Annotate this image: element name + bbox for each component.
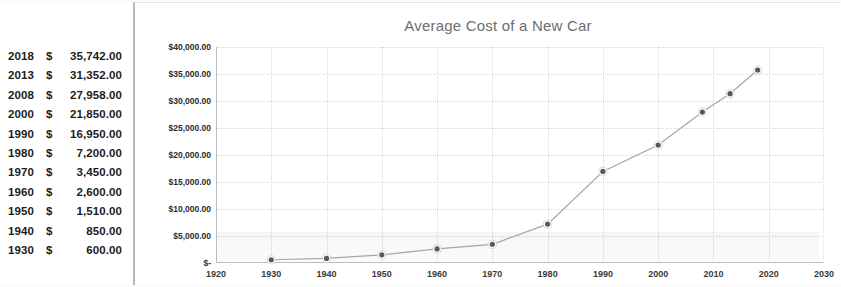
x-axis-labels: 1920193019401950196019701980199020002010…: [216, 269, 824, 285]
cell-currency-symbol: $: [46, 186, 62, 198]
y-tick-label: $40,000.00: [168, 42, 211, 52]
cell-currency-symbol: $: [46, 108, 62, 120]
x-tick-label: 1950: [372, 269, 392, 279]
x-tick-label: 1940: [317, 269, 337, 279]
y-tick-label: $25,000.00: [168, 123, 211, 133]
cell-amount: 850.00: [62, 225, 126, 237]
chart-title: Average Cost of a New Car: [135, 17, 839, 34]
cell-year: 1930: [0, 244, 46, 256]
cell-amount: 1,510.00: [62, 205, 126, 217]
x-tick-label: 1970: [482, 269, 502, 279]
cell-currency-symbol: $: [46, 50, 62, 62]
cell-currency-symbol: $: [46, 205, 62, 217]
cell-year: 1990: [0, 128, 46, 140]
x-tick-label: 1920: [206, 269, 226, 279]
cell-amount: 31,352.00: [62, 69, 126, 81]
table-row: 1930$600.00: [0, 244, 130, 263]
cell-year: 2018: [0, 50, 46, 62]
data-point-marker: [269, 257, 274, 262]
data-point-marker: [755, 67, 760, 72]
table-row: 1940$850.00: [0, 225, 130, 244]
cell-currency-symbol: $: [46, 166, 62, 178]
table-row: 1980$7,200.00: [0, 147, 130, 166]
cell-year: 2013: [0, 69, 46, 81]
cell-currency-symbol: $: [46, 89, 62, 101]
cost-data-table: 2018$35,742.002013$31,352.002008$27,958.…: [0, 50, 130, 263]
cell-amount: 35,742.00: [62, 50, 126, 62]
table-row: 2013$31,352.00: [0, 69, 130, 88]
data-point-marker: [434, 246, 439, 251]
cost-line-series: [216, 47, 824, 263]
table-row: 1990$16,950.00: [0, 128, 130, 147]
y-axis-labels: $40,000.00$35,000.00$30,000.00$25,000.00…: [135, 47, 211, 263]
data-point-marker: [727, 91, 732, 96]
plot-area: [216, 47, 824, 263]
x-tick-label: 2000: [648, 269, 668, 279]
table-row: 2008$27,958.00: [0, 89, 130, 108]
x-tick-label: 1990: [593, 269, 613, 279]
cell-amount: 600.00: [62, 244, 126, 256]
y-tick-label: $30,000.00: [168, 96, 211, 106]
cell-amount: 3,450.00: [62, 166, 126, 178]
x-tick-label: 1960: [427, 269, 447, 279]
series-line: [271, 70, 757, 260]
cell-year: 1980: [0, 147, 46, 159]
cell-year: 1960: [0, 186, 46, 198]
cell-amount: 2,600.00: [62, 186, 126, 198]
cell-currency-symbol: $: [46, 244, 62, 256]
table-row: 2000$21,850.00: [0, 108, 130, 127]
cell-currency-symbol: $: [46, 147, 62, 159]
data-point-marker: [656, 142, 661, 147]
x-tick-label: 2030: [814, 269, 834, 279]
y-tick-label: $35,000.00: [168, 69, 211, 79]
cell-year: 1970: [0, 166, 46, 178]
table-row: 1960$2,600.00: [0, 186, 130, 205]
x-tick-label: 2020: [759, 269, 779, 279]
cell-year: 1950: [0, 205, 46, 217]
cell-currency-symbol: $: [46, 69, 62, 81]
y-tick-label: $15,000.00: [168, 177, 211, 187]
y-tick-label: $20,000.00: [168, 150, 211, 160]
data-point-marker: [379, 252, 384, 257]
table-row: 1970$3,450.00: [0, 166, 130, 185]
data-point-marker: [600, 169, 605, 174]
cell-currency-symbol: $: [46, 128, 62, 140]
cell-year: 2000: [0, 108, 46, 120]
y-tick-label: $5,000.00: [173, 231, 211, 241]
cell-amount: 7,200.00: [62, 147, 126, 159]
x-tick-label: 1930: [261, 269, 281, 279]
x-tick-label: 2010: [703, 269, 723, 279]
data-point-marker: [545, 222, 550, 227]
cell-amount: 21,850.00: [62, 108, 126, 120]
cell-currency-symbol: $: [46, 225, 62, 237]
data-point-marker: [324, 256, 329, 261]
cell-amount: 16,950.00: [62, 128, 126, 140]
table-row: 1950$1,510.00: [0, 205, 130, 224]
x-tick-label: 1980: [538, 269, 558, 279]
cell-year: 1940: [0, 225, 46, 237]
data-point-marker: [700, 109, 705, 114]
y-tick-label: $-: [203, 258, 211, 268]
table-row: 2018$35,742.00: [0, 50, 130, 69]
chart-container: Average Cost of a New Car $40,000.00$35,…: [133, 2, 839, 285]
y-tick-label: $10,000.00: [168, 204, 211, 214]
data-point-marker: [490, 242, 495, 247]
cell-amount: 27,958.00: [62, 89, 126, 101]
cell-year: 2008: [0, 89, 46, 101]
